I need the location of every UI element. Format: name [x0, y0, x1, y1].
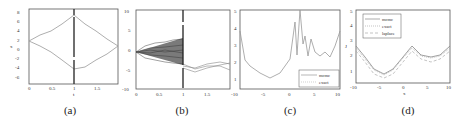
svg-text:-2: -2	[15, 56, 20, 61]
chart-d: 543 21 -10-50 510 xJ mcmc exact laplace	[340, 0, 466, 100]
svg-text:-6: -6	[15, 75, 20, 80]
svg-text:0: 0	[288, 92, 291, 97]
legend-c-mcmc: mcmc	[319, 73, 330, 78]
legend-d-mcmc: mcmc	[382, 17, 393, 22]
svg-text:2: 2	[17, 38, 20, 43]
svg-text:2: 2	[350, 53, 353, 58]
chart-c: 543 21 -10-50 510 mcmc exact	[225, 0, 345, 100]
svg-text:1: 1	[350, 69, 353, 74]
svg-text:0: 0	[402, 85, 405, 90]
svg-text:8: 8	[17, 10, 20, 15]
svg-text:5: 5	[426, 85, 429, 90]
svg-text:5: 5	[234, 9, 237, 14]
svg-text:J: J	[345, 44, 347, 49]
svg-text:-5: -5	[126, 68, 131, 73]
caption-d: (d)	[388, 104, 428, 116]
svg-text:1.5: 1.5	[204, 92, 211, 97]
legend-d-exact: exact	[382, 24, 392, 29]
svg-text:1.5: 1.5	[94, 86, 101, 91]
svg-text:0: 0	[135, 92, 138, 97]
svg-text:t: t	[73, 92, 75, 97]
panel-b: 1050 -5-10 00.51 1.5 (b)	[110, 0, 235, 122]
svg-text:x: x	[403, 91, 406, 96]
svg-text:-4: -4	[15, 65, 20, 70]
svg-text:-5: -5	[377, 85, 382, 90]
caption-a: (a)	[50, 104, 90, 116]
svg-text:1: 1	[73, 86, 76, 91]
svg-text:5: 5	[313, 92, 316, 97]
svg-text:0: 0	[128, 48, 131, 53]
panel-c: 543 21 -10-50 510 mcmc exact (c)	[225, 0, 345, 122]
svg-text:-10: -10	[231, 92, 238, 97]
svg-text:4: 4	[17, 28, 20, 33]
svg-text:4: 4	[234, 26, 237, 31]
svg-text:-10: -10	[350, 85, 357, 90]
svg-text:3: 3	[350, 38, 353, 43]
svg-text:3: 3	[234, 43, 237, 48]
svg-text:5: 5	[128, 28, 131, 33]
svg-text:1: 1	[234, 77, 237, 82]
svg-text:10: 10	[124, 9, 130, 14]
caption-c: (c)	[270, 104, 310, 116]
svg-text:-10: -10	[122, 87, 129, 92]
legend-c: mcmc exact	[299, 70, 339, 87]
svg-text:0.5: 0.5	[156, 92, 163, 97]
chart-b: 1050 -5-10 00.51 1.5	[110, 0, 235, 100]
svg-text:1: 1	[182, 92, 185, 97]
legend-d: mcmc exact laplace	[363, 14, 401, 38]
svg-text:0: 0	[28, 86, 31, 91]
svg-text:0.5: 0.5	[49, 86, 56, 91]
svg-text:6: 6	[17, 19, 20, 24]
svg-text:x: x	[10, 44, 13, 49]
svg-text:10: 10	[446, 85, 452, 90]
panel-d: 543 21 -10-50 510 xJ mcmc exact laplace …	[340, 0, 466, 122]
svg-text:2: 2	[234, 60, 237, 65]
legend-c-exact: exact	[319, 80, 329, 85]
caption-b: (b)	[162, 104, 202, 116]
svg-text:4: 4	[350, 23, 353, 28]
svg-text:-5: -5	[261, 92, 266, 97]
legend-d-laplace: laplace	[382, 31, 395, 36]
svg-text:0: 0	[17, 47, 20, 52]
chart-a: 864 20-2 -4-6 00.51 1.5 xt	[0, 0, 120, 100]
svg-text:5: 5	[350, 9, 353, 14]
panel-a: 864 20-2 -4-6 00.51 1.5 xt (a)	[0, 0, 120, 122]
